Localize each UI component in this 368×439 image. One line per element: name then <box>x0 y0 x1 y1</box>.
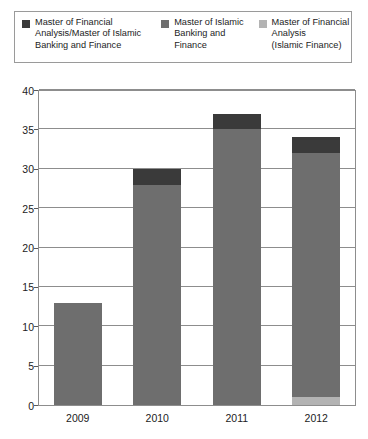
y-tick-label-25: 25 <box>22 204 34 215</box>
bar-stack-2010 <box>133 169 181 405</box>
bar-group-2010[interactable] <box>133 90 181 405</box>
x-tick-label-2012: 2012 <box>305 412 328 424</box>
y-tick-label-15: 15 <box>22 283 34 294</box>
legend-label-1: Master of Islamic Banking and Finance <box>174 17 243 51</box>
legend-entry-0: Master of Financial Analysis/Master of I… <box>15 17 159 51</box>
bar-segment-2011-s2[interactable] <box>213 114 261 130</box>
y-tick-label-30: 30 <box>22 165 34 176</box>
y-tick-label-0: 0 <box>28 401 34 412</box>
bar-stack-2012 <box>292 137 340 405</box>
legend-swatch-dark-icon <box>22 20 30 28</box>
x-axis: 2009201020112012 <box>38 412 356 428</box>
bar-stack-2009 <box>54 303 102 405</box>
legend-swatch-medium-icon <box>161 20 169 28</box>
bar-stack-2011 <box>213 114 261 405</box>
x-tick-label-2010: 2010 <box>146 412 169 424</box>
x-tick-label-2011: 2011 <box>225 412 248 424</box>
y-tick-label-20: 20 <box>22 243 34 254</box>
bar-segment-2009-s1[interactable] <box>54 303 102 405</box>
legend-entry-1: Master of Islamic Banking and Finance <box>159 17 256 51</box>
bar-group-2009[interactable] <box>54 90 102 405</box>
bar-segment-2010-s2[interactable] <box>133 169 181 185</box>
y-tick-label-5: 5 <box>28 361 34 372</box>
chart-legend: Master of Financial Analysis/Master of I… <box>14 11 352 63</box>
y-tick-label-10: 10 <box>22 322 34 333</box>
legend-entry-2: Master of Financial Analysis (Islamic Fi… <box>257 17 351 51</box>
y-tick-label-40: 40 <box>22 86 34 97</box>
bar-segment-2011-s1[interactable] <box>213 129 261 405</box>
legend-swatch-light-icon <box>259 20 267 28</box>
bar-segment-2012-s1[interactable] <box>292 153 340 397</box>
bar-group-2012[interactable] <box>292 90 340 405</box>
bar-group-2011[interactable] <box>213 90 261 405</box>
bar-segment-2012-s2[interactable] <box>292 137 340 153</box>
bar-segment-2010-s1[interactable] <box>133 185 181 406</box>
y-axis: 0510152025303540 <box>0 90 34 406</box>
bars-layer <box>38 90 356 405</box>
legend-label-2: Master of Financial Analysis (Islamic Fi… <box>272 17 350 51</box>
bar-segment-2012-s0[interactable] <box>292 397 340 405</box>
legend-label-0: Master of Financial Analysis/Master of I… <box>35 17 141 51</box>
x-tick-label-2009: 2009 <box>66 412 89 424</box>
y-tick-label-35: 35 <box>22 125 34 136</box>
